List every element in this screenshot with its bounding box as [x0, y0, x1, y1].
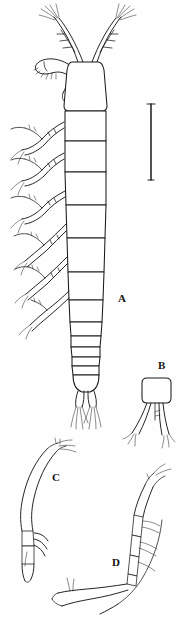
swimming-leg-3: [11, 191, 65, 233]
swimming-leg-2: [11, 153, 64, 195]
urosome-segment-2: [70, 322, 102, 336]
antennule-right: [92, 4, 136, 62]
panel-a-whole-animal: A: [11, 4, 136, 429]
caudal-ramus-left: [71, 391, 88, 429]
illustration-canvas: A B: [0, 0, 178, 626]
thoracic-somite-2: [65, 141, 106, 172]
anal-somite: [73, 375, 99, 392]
antennule-left: [39, 4, 83, 62]
caudal-ramus-right: [84, 391, 101, 429]
figure-plate: A B: [0, 0, 178, 626]
urosome-segment-6: [72, 366, 99, 375]
panel-label-a: A: [118, 292, 126, 304]
urosome-segment-4: [71, 347, 100, 357]
thoracic-somite-1: [65, 111, 106, 141]
panel-b-appendage: B: [123, 359, 175, 448]
scale-bar: [147, 104, 155, 180]
swimming-leg-4: [14, 224, 66, 275]
panel-label-d: D: [112, 556, 120, 568]
panel-c-appendage: C: [21, 438, 76, 582]
thoracic-somite-4: [66, 205, 106, 238]
thoracic-somite-3: [65, 172, 106, 205]
cephalothorax: [64, 62, 107, 111]
panel-label-c: C: [52, 471, 60, 483]
thoracic-somite-5: [67, 238, 105, 272]
panel-d-appendage: D: [52, 464, 171, 614]
panel-label-b: B: [158, 359, 166, 371]
urosome-segment-1: [69, 300, 103, 322]
thoracic-somite-6: [68, 272, 104, 300]
panel-b-basal-segment: [142, 378, 171, 403]
urosome-segment-3: [71, 336, 101, 347]
urosome-segment-5: [72, 357, 100, 366]
